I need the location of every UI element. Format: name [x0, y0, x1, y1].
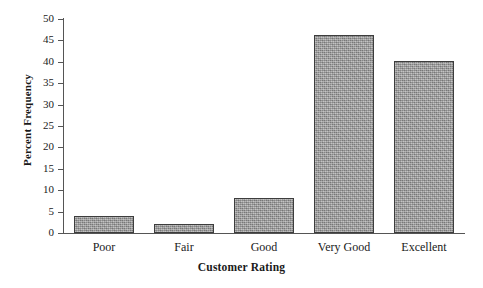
bar-chart: Percent Frequency 05101520253035404550 P… [0, 0, 483, 288]
bar [154, 224, 214, 233]
bar [234, 198, 294, 233]
bar [394, 61, 454, 233]
x-axis-title: Customer Rating [0, 261, 483, 273]
x-axis-line [63, 233, 465, 234]
y-axis-tick-label: 40 [28, 56, 54, 67]
y-axis-tick-label: 0 [28, 227, 54, 238]
y-axis-tick [58, 233, 64, 234]
y-axis-tick-label: 20 [28, 141, 54, 152]
y-axis-tick-label: 35 [28, 77, 54, 88]
y-axis-tick-label: 45 [28, 34, 54, 45]
x-axis-category-label: Excellent [374, 240, 474, 255]
y-axis-tick-label: 30 [28, 99, 54, 110]
y-axis-tick-label: 5 [28, 206, 54, 217]
plot-area [64, 19, 465, 233]
y-axis-tick-label: 15 [28, 163, 54, 174]
y-axis-tick-label: 25 [28, 120, 54, 131]
y-axis-tick-label: 50 [28, 13, 54, 24]
bar [314, 35, 374, 233]
y-axis-tick-label: 10 [28, 184, 54, 195]
bar [74, 216, 134, 233]
